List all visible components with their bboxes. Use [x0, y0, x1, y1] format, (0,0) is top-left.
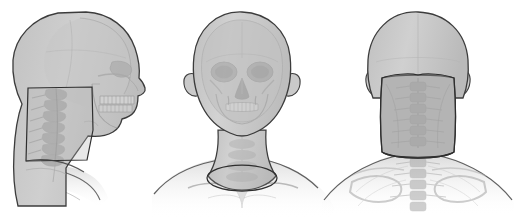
lateral-upper-teeth	[100, 96, 134, 104]
neck-base-highlight[interactable]	[207, 165, 277, 191]
posterior-shoulders	[322, 154, 514, 216]
lateral-lower-teeth	[99, 105, 132, 112]
lateral-head-neck-view	[0, 0, 170, 220]
illustration-canvas	[0, 0, 517, 220]
cervical-region-highlight[interactable]	[26, 87, 93, 161]
anterior-head-neck-view	[150, 0, 335, 220]
posterior-head-neck-view	[320, 0, 517, 220]
anterior-teeth	[226, 102, 258, 112]
